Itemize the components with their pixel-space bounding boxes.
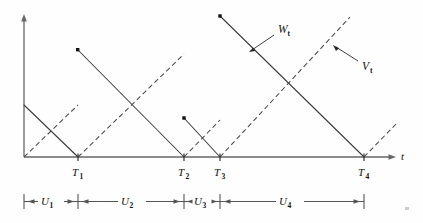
time-label-t2-base: T — [178, 166, 185, 178]
x-axis-label: t — [401, 150, 405, 162]
jump-dot-t1 — [76, 48, 79, 51]
v-label-arrowhead-icon — [333, 45, 339, 51]
interval-label-u1-sub: 1 — [50, 201, 54, 210]
bracket-arrow-u4-right-icon — [354, 199, 361, 203]
time-label-t3: T 3 — [214, 166, 226, 181]
axes-group — [21, 14, 396, 160]
jump-dots-group — [76, 14, 222, 119]
v-label-leader-line — [336, 47, 358, 61]
interval-label-u3: U 3 — [194, 195, 207, 210]
renewal-process-figure: W t V t t T 1 T 2 T 3 T 4 — [0, 0, 423, 223]
curve-label-w-sub: t — [288, 29, 291, 38]
w-segment-2 — [184, 118, 220, 157]
bracket-arrow-u1-left-icon — [28, 199, 35, 203]
v-segment-4 — [364, 124, 396, 157]
bracket-arrow-u3-left-icon — [187, 199, 193, 203]
interval-bracket-bar: U 1 U 2 U 3 U 4 — [24, 194, 364, 210]
w-curve-solid-group — [24, 16, 364, 157]
w-segment-1 — [78, 50, 184, 157]
x-axis-arrowhead-icon — [389, 154, 397, 160]
time-label-t1: T 1 — [72, 166, 84, 181]
bracket-arrow-u2-left-icon — [82, 199, 89, 203]
v-segment-3 — [220, 17, 350, 157]
bracket-arrow-u4-left-icon — [224, 199, 231, 203]
jump-dot-t3 — [218, 14, 221, 17]
time-label-t3-base: T — [214, 166, 221, 178]
curve-label-v-sub: t — [370, 66, 373, 75]
time-label-t2-sub: 2 — [186, 172, 190, 181]
w-segment-3 — [220, 16, 364, 157]
interval-label-u1: U 1 — [41, 195, 54, 210]
time-label-t4: T 4 — [358, 166, 370, 181]
y-axis-arrowhead-icon — [21, 14, 27, 22]
jump-dot-t2 — [182, 116, 185, 119]
bracket-arrow-u2-right-icon — [174, 199, 181, 203]
time-label-t3-sub: 3 — [222, 172, 226, 181]
bracket-arrow-u1-right-icon — [68, 199, 75, 203]
time-label-t1-base: T — [72, 166, 79, 178]
interval-label-u2-sub: 2 — [130, 201, 134, 210]
curve-label-v: V t — [362, 60, 373, 75]
time-label-t1-sub: 1 — [80, 172, 84, 181]
annotation-leaders-group — [249, 35, 358, 61]
scan-speck — [405, 207, 409, 210]
time-label-t4-sub: 4 — [366, 172, 370, 181]
interval-label-u4: U 4 — [279, 195, 292, 210]
v-curve-dashed-group — [24, 17, 396, 157]
interval-label-u2: U 2 — [121, 195, 134, 210]
plot-canvas: W t V t t T 1 T 2 T 3 T 4 — [0, 0, 423, 223]
w-label-leader-line — [252, 35, 274, 50]
interval-label-u3-sub: 3 — [203, 201, 207, 210]
interval-label-u4-sub: 4 — [288, 201, 292, 210]
curve-label-w: W t — [278, 23, 291, 38]
bracket-arrow-u3-right-icon — [212, 199, 218, 203]
time-label-t4-base: T — [358, 166, 365, 178]
time-label-t2: T 2 — [178, 166, 190, 181]
